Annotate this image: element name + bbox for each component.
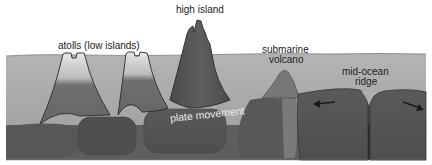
left-plate-segment [6,123,82,158]
plate-block-1 [78,117,136,155]
label-high-island: high island [176,5,224,15]
label-mid-ocean-line2: ridge [355,77,377,87]
left-ridge-plate [297,89,368,160]
label-atolls: atolls (low islands) [58,41,140,51]
right-ridge-plate [370,90,426,160]
ocean-floor-diagram: high island atolls (low islands) submari… [0,0,432,165]
label-submarine-volcano-line2: volcano [269,55,303,65]
